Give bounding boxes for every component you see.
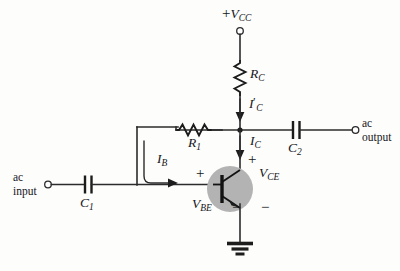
capacitor-c2[interactable] [293,121,300,139]
label-vbe-plus: + [196,166,204,181]
label-vce-subscript: CE [267,172,279,182]
label-ic-symbol: I [250,133,255,148]
label-rc-subscript: C [258,73,264,83]
label-ac-output-line2: output [362,131,391,145]
label-ib-symbol: I [157,151,162,166]
capacitor-c1[interactable] [85,176,92,194]
label-vce-plus: + [248,152,256,167]
label-r1-subscript: 1 [196,142,201,152]
ac-output-terminal-node[interactable] [352,127,359,134]
vcc-supply-branch [237,28,244,60]
label-c1-symbol: C [80,195,89,210]
label-vce: VCE [259,166,279,180]
label-vcc-symbol: V [230,6,238,21]
label-rc: RC [250,67,265,81]
ground-symbol [227,244,253,255]
label-c1-subscript: 1 [89,202,94,212]
label-ib-subscript: B [162,158,168,168]
vcc-terminal-node[interactable] [237,28,244,35]
label-r1: R1 [188,136,201,150]
label-ic-prime: I′C [249,97,262,111]
ac-input-terminal-node[interactable] [45,181,52,188]
label-ic-prime-subscript: C [256,103,262,113]
label-c2: C2 [288,141,302,155]
label-ic: IC [250,134,261,148]
label-ac-input-line1: ac [13,171,37,185]
label-c2-symbol: C [288,140,297,155]
label-vbe: VBE [192,197,212,211]
label-c2-subscript: 2 [297,147,302,157]
label-vbe-minus: − [232,200,240,215]
label-ac-input: ac input [13,171,37,198]
label-ac-output: ac output [362,117,391,144]
label-r1-symbol: R [188,135,196,150]
label-c1: C1 [80,196,94,210]
label-ac-input-line2: input [13,185,37,199]
transistor-body-circle [207,166,253,212]
label-vce-symbol: V [259,165,267,180]
label-vcc-subscript: CC [239,13,252,23]
label-vce-minus: − [261,200,269,215]
transistor-q1-npn[interactable] [207,166,253,212]
circuit-diagram-canvas: +VCC RC I′C IC R1 IB C1 C2 VCE VBE + + −… [0,0,400,271]
resistor-rc[interactable] [235,60,246,96]
label-vbe-symbol: V [192,196,200,211]
label-ic-subscript: C [255,140,261,150]
label-vbe-subscript: BE [200,203,212,213]
label-ac-output-line1: ac [362,117,391,131]
label-ib: IB [157,152,167,166]
label-vcc: +VCC [222,5,251,21]
label-rc-symbol: R [250,66,258,81]
